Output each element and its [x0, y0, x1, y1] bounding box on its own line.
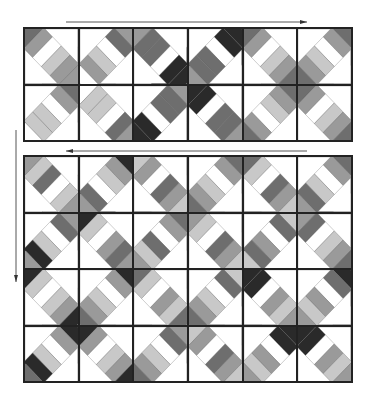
striped-block-icon	[298, 327, 351, 382]
striped-block-icon	[25, 29, 78, 84]
bottom-panel-block	[24, 269, 79, 326]
bottom-quilt-panel	[23, 155, 353, 383]
striped-block-icon	[80, 157, 133, 212]
bottom-panel-block	[79, 156, 134, 213]
striped-block-icon	[80, 214, 133, 269]
top-quilt-panel	[23, 27, 353, 142]
striped-block-icon	[134, 214, 187, 269]
left-arrow-down-icon	[14, 130, 18, 282]
striped-block-icon	[298, 157, 351, 212]
striped-block-icon	[80, 29, 133, 84]
top-panel-block	[188, 85, 243, 142]
bottom-panel-block	[133, 326, 188, 383]
striped-block-icon	[80, 86, 133, 141]
bottom-panel-block	[297, 156, 352, 213]
bottom-panel-block	[79, 213, 134, 270]
bottom-panel-block	[133, 269, 188, 326]
striped-block-icon	[134, 86, 187, 141]
bottom-panel-block	[133, 213, 188, 270]
bottom-panel-block	[24, 156, 79, 213]
bottom-panel-block	[297, 326, 352, 383]
striped-block-icon	[25, 270, 78, 325]
striped-block-icon	[134, 270, 187, 325]
striped-block-icon	[298, 214, 351, 269]
striped-block-icon	[189, 270, 242, 325]
bottom-panel-block	[297, 213, 352, 270]
bottom-panel-block	[188, 213, 243, 270]
top-panel-block	[79, 85, 134, 142]
top-arrow-right-icon	[66, 20, 307, 24]
top-panel-block	[243, 28, 298, 85]
striped-block-icon	[298, 270, 351, 325]
top-panel-block	[24, 85, 79, 142]
striped-block-icon	[80, 270, 133, 325]
top-panel-block	[79, 28, 134, 85]
striped-block-icon	[298, 29, 351, 84]
bottom-panel-block	[243, 213, 298, 270]
bottom-panel-block	[24, 326, 79, 383]
striped-block-icon	[244, 214, 297, 269]
striped-block-icon	[298, 86, 351, 141]
bottom-panel-block	[243, 326, 298, 383]
top-panel-block	[188, 28, 243, 85]
striped-block-icon	[25, 86, 78, 141]
striped-block-icon	[25, 327, 78, 382]
striped-block-icon	[244, 157, 297, 212]
bottom-panel-block	[133, 156, 188, 213]
bottom-panel-block	[243, 269, 298, 326]
striped-block-icon	[189, 327, 242, 382]
bottom-panel-block	[24, 213, 79, 270]
striped-block-icon	[25, 157, 78, 212]
striped-block-icon	[244, 29, 297, 84]
top-panel-block	[133, 28, 188, 85]
bottom-panel-block	[243, 156, 298, 213]
bottom-panel-block	[188, 269, 243, 326]
bottom-panel-block	[79, 326, 134, 383]
striped-block-icon	[189, 86, 242, 141]
striped-block-icon	[134, 327, 187, 382]
bottom-panel-block	[297, 269, 352, 326]
striped-block-icon	[189, 157, 242, 212]
striped-block-icon	[134, 157, 187, 212]
bottom-panel-block	[79, 269, 134, 326]
bottom-panel-block	[188, 156, 243, 213]
top-panel-block	[297, 28, 352, 85]
striped-block-icon	[244, 86, 297, 141]
striped-block-icon	[80, 327, 133, 382]
top-panel-block	[133, 85, 188, 142]
striped-block-icon	[244, 270, 297, 325]
striped-block-icon	[25, 214, 78, 269]
striped-block-icon	[244, 327, 297, 382]
top-panel-block	[297, 85, 352, 142]
striped-block-icon	[134, 29, 187, 84]
top-panel-block	[24, 28, 79, 85]
striped-block-icon	[189, 29, 242, 84]
striped-block-icon	[189, 214, 242, 269]
top-panel-block	[243, 85, 298, 142]
middle-arrow-left-icon	[66, 149, 307, 153]
bottom-panel-block	[188, 326, 243, 383]
